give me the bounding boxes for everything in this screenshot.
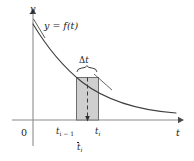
t-left-endpoint-label: ti − 1 [56, 127, 74, 136]
y-axis-label: y [30, 4, 35, 14]
curve-label-prefix: y = f( [44, 20, 71, 31]
curve-label-suffix: ) [74, 20, 78, 31]
t-axis-label: t [176, 128, 180, 138]
curve-label: y = f(t) [44, 21, 78, 31]
t-right-endpoint-label: ti [95, 127, 100, 136]
t-left-subscript: i − 1 [59, 130, 74, 137]
delta-t-brace [77, 66, 97, 72]
x-axis-arrowhead [178, 117, 184, 123]
function-curve [33, 24, 176, 113]
origin-label: 0 [21, 128, 27, 138]
figure-canvas: y t 0 y = f(t) Δt ti − 1 ti ti [0, 0, 194, 161]
delta-t-variable: t [85, 55, 88, 65]
sample-point-label: ti [77, 143, 82, 152]
diagram-svg [0, 0, 194, 161]
delta-t-label: Δt [79, 56, 89, 65]
